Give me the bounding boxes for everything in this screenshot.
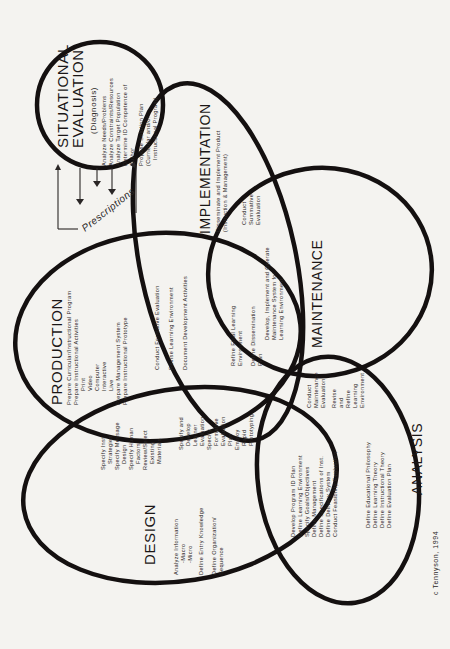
overlap-item: Specify Human [128,428,134,470]
copyright-text: c Tennyson, 1994 [432,531,440,595]
overlap-item: Develop Program ID Plan [290,466,296,537]
maintenance-title: MAINTENANCE [309,240,325,349]
overlap-item: Plan [257,353,263,366]
overlap-item: Environment [237,331,243,366]
overlap-item: Learner [192,424,198,446]
overlap-item: Environment [359,373,365,408]
situational-item: Analyze Needs/Problems [101,95,107,166]
overlap-item: Existing [149,442,155,464]
production-item: Prepare Management System [115,322,121,405]
situational-item: Determine ID Competence of [122,84,128,166]
overlap-item: Conduct Feasibility Evaluation [332,452,338,537]
overlap-item: Evaluation [220,416,226,446]
overlap-item: Materials [156,438,162,464]
production-item: Computer [94,364,100,391]
overlap-item: Refine [345,390,351,408]
analysis-item: Define Instructional Theory [379,452,385,528]
overlap-item: Review/Select [142,430,148,470]
implementation-item: (Instruction & Management) [222,154,228,232]
production-item: Prepare Curricular/Instructional Program [66,291,72,405]
situational-item: Analyze Constraints/Resources [108,78,114,166]
production-item: Video [87,375,93,391]
analysis-item: Define Evaluation Plan [386,464,392,528]
overlap-item: Define Dissemination [250,306,256,366]
production-item: Interactive [101,361,107,391]
maintenance-item: Learning Environment [278,278,284,340]
overlap-item: Formative [213,418,219,446]
design-item: Define Organization/ [211,517,217,575]
overlap-item: Conduct [241,202,247,225]
overlap-item: Specify Goals/Objectives [304,466,310,537]
overlap-item: and [338,398,344,408]
situational-subtitle: (Diagnosis) [89,87,98,134]
prescriptions-label: Prescriptions [79,185,136,233]
overlap-item: Define Delivery System [325,471,331,537]
overlap-item: Evaluation [255,195,261,225]
production-title: PRODUCTION [48,298,65,405]
overlap-item: Refine Final Learning [230,305,236,366]
design-item: -Micro [187,545,193,563]
design-item: Sequence [218,547,224,575]
situational-item: (Curricular and/or [145,116,151,166]
instructional-systems-design-diagram: Prescriptions SITUATIONAL EVALUATION (Di… [0,0,450,649]
overlap-item: Prototyping [248,414,254,446]
overlap-item: Evaluation [199,416,205,446]
design-item: Analyze Information [173,519,179,575]
design-item: Define Entry Knowledge [198,507,204,575]
overlap-item: Summative [248,194,254,225]
overlap-item: Strategies [107,435,113,464]
overlap-item: Plan [227,433,233,446]
implementation-item: Disseminate and Implement Product [215,130,221,232]
maintenance-item: Develop, Implement and Operate [264,247,270,340]
design-item: -Macro [180,543,186,563]
situational-item: Propose Solution Plan [138,103,144,166]
situational-item: Analyze Target Population [115,92,121,166]
production-item: Prepare Instructional Prototype [122,317,128,405]
production-item: Prepare Instructional Activities [73,319,79,405]
overlap-item: Define Management [311,481,317,537]
overlap-item: Define Specifications of Inst. [318,456,324,537]
overlap-item: Factors [135,443,141,464]
overlap-item: Specify and [178,417,184,450]
overlap-item: Specify [206,429,212,450]
overlap-item: Employ [234,429,240,450]
overlap-item: Define Learning Environment [297,455,303,537]
overlap-item: Conduct [306,385,312,408]
implementation-title: IMPLEMENTATION [197,103,213,234]
overlap-item: Document Development Activities [182,276,188,370]
overlap-item: Maintenance [313,372,319,408]
overlap-item: Revise Learning Environment [168,287,174,370]
overlap-item: Evaluation [320,378,326,408]
production-item: Print [80,378,86,391]
design-title: DESIGN [141,504,158,565]
situational-item: Author [129,147,135,166]
overlap-item: Rapid [241,430,247,446]
maintenance-item: Maintenance System for [271,272,277,340]
overlap-item: Develop [185,423,191,446]
overlap-item: Conduct Formative Evaluation [154,285,160,370]
overlap-item: Specify Inst. [100,435,106,470]
situational-item: Instructional Program) [152,97,158,160]
production-item: Live [108,379,114,391]
overlap-item: Specify Message [114,422,120,470]
analysis-item: Define Learning Theory [372,462,378,528]
analysis-title: ANALYSIS [409,423,425,495]
overlap-item: Learning [352,383,358,408]
situational-title-line2: EVALUATION [69,49,86,148]
overlap-item: Design [121,444,127,464]
overlap-item: Revise [331,389,337,408]
analysis-item: Define Educational Philosophy [365,442,371,528]
